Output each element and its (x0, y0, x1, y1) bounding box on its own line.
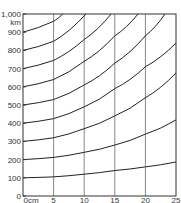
x-axis-ticks: 0cm510152025 (23, 196, 181, 203)
x-tick-label: 15 (110, 196, 119, 203)
plot-frame (23, 14, 176, 196)
curve-series (23, 14, 176, 178)
curve-600 (23, 14, 138, 87)
y-tick-label: 0 (17, 192, 22, 201)
x-tick-label: 20 (141, 196, 150, 203)
y-tick-label: 900 (8, 28, 22, 37)
x-tick-label: 5 (51, 196, 56, 203)
y-tick-label: 800 (8, 46, 22, 55)
curve-500 (23, 14, 165, 105)
x-tick-label: 25 (172, 196, 181, 203)
y-tick-label: 300 (8, 137, 22, 146)
curve-700 (23, 14, 111, 69)
curve-200 (23, 120, 176, 160)
y-axis-ticks: 01002003004005006007008009001,000km (1, 10, 26, 201)
y-tick-label: 400 (8, 119, 22, 128)
curve-400 (23, 43, 176, 123)
y-tick-label: 500 (8, 101, 22, 110)
y-unit-label: km (10, 18, 21, 27)
y-tick-label: 700 (8, 65, 22, 74)
y-tick-label: 600 (8, 83, 22, 92)
curve-100 (23, 162, 176, 178)
x-tick-label: 0cm (23, 196, 38, 203)
curve-800 (23, 14, 86, 50)
x-tick-label: 10 (80, 196, 89, 203)
curve-900 (23, 14, 63, 32)
y-tick-label: 100 (8, 174, 22, 183)
y-tick-label: 200 (8, 156, 22, 165)
chart: 01002003004005006007008009001,000km 0cm5… (0, 0, 181, 203)
